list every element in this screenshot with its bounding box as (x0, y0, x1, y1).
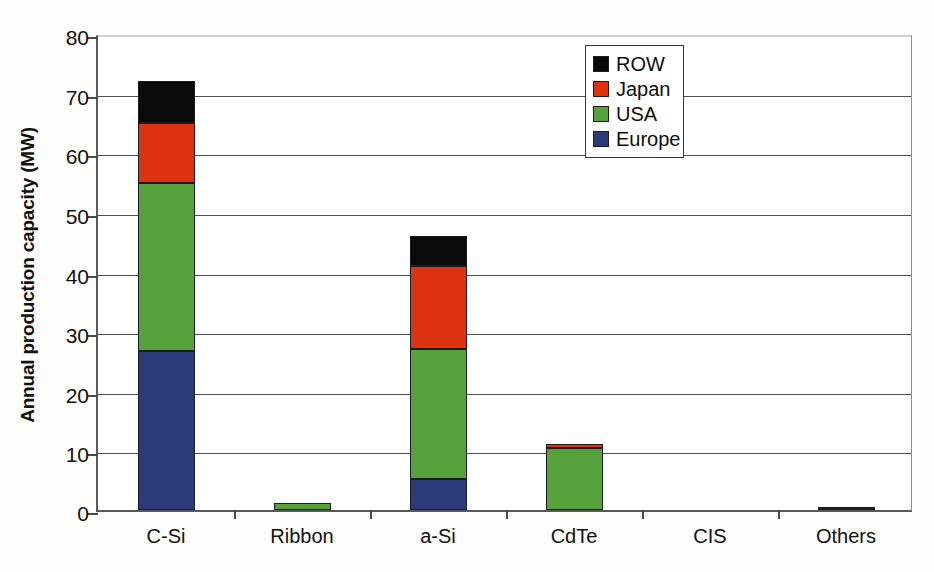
y-tick-0 (88, 513, 98, 515)
chart-legend: ROW Japan USA Europe (585, 45, 684, 158)
bar-others[interactable] (818, 507, 875, 510)
gridline-80: 80 (98, 36, 911, 37)
y-tick-label-20: 20 (66, 384, 89, 405)
legend-label-usa: USA (616, 104, 657, 124)
y-tick-20 (88, 395, 98, 397)
x-tick-boundary-1 (234, 510, 236, 519)
y-tick-80 (88, 37, 98, 39)
gridline-20: 20 (98, 394, 911, 395)
bar-ribbon[interactable] (274, 503, 331, 510)
gridline-50: 50 (98, 215, 911, 216)
bar-segment-a-si-europe (410, 479, 467, 510)
figure-caption (0, 556, 934, 572)
chart-figure: Annual production capacity (MW) 80 70 60… (0, 0, 934, 572)
legend-label-europe: Europe (616, 129, 681, 149)
legend-item-usa[interactable]: USA (593, 101, 676, 126)
gridline-60: 60 (98, 155, 911, 156)
x-axis-label-c-si: C-Si (147, 526, 186, 546)
bar-cdte[interactable] (546, 444, 603, 510)
legend-swatch-usa-icon (593, 106, 609, 122)
plot-area: 80 70 60 50 40 30 20 10 (96, 35, 912, 512)
x-tick-boundary-2 (370, 510, 372, 519)
bar-segment-ribbon-usa (274, 503, 331, 510)
legend-swatch-japan-icon (593, 81, 609, 97)
x-axis-label-cis: CIS (693, 526, 726, 546)
y-tick-label-80: 80 (66, 27, 89, 48)
bar-segment-others-row (818, 507, 875, 510)
gridline-70: 70 (98, 96, 911, 97)
y-tick-30 (88, 335, 98, 337)
y-tick-70 (88, 97, 98, 99)
bar-segment-cdte-usa (546, 448, 603, 510)
x-axis-label-cdte: CdTe (551, 526, 598, 546)
y-tick-60 (88, 156, 98, 158)
bar-segment-a-si-row (410, 236, 467, 266)
x-tick-boundary-3 (506, 510, 508, 519)
y-tick-label-0: 0 (77, 503, 89, 524)
y-tick-50 (88, 216, 98, 218)
bar-segment-a-si-usa (410, 349, 467, 479)
bar-a-si[interactable] (410, 236, 467, 510)
x-axis-label-a-si: a-Si (420, 526, 456, 546)
gridline-10: 10 (98, 453, 911, 454)
legend-item-row[interactable]: ROW (593, 51, 676, 76)
gridline-40: 40 (98, 275, 911, 276)
x-axis-label-ribbon: Ribbon (270, 526, 333, 546)
legend-swatch-europe-icon (593, 131, 609, 147)
y-tick-label-40: 40 (66, 265, 89, 286)
legend-label-row: ROW (616, 54, 665, 74)
y-tick-label-70: 70 (66, 86, 89, 107)
x-tick-boundary-5 (778, 510, 780, 519)
legend-item-europe[interactable]: Europe (593, 126, 676, 151)
y-axis-title: Annual production capacity (MW) (17, 25, 39, 525)
bar-segment-c-si-japan (138, 123, 195, 184)
bar-segment-a-si-japan (410, 266, 467, 350)
bar-segment-c-si-usa (138, 183, 195, 351)
bar-segment-c-si-row (138, 81, 195, 123)
y-tick-label-30: 30 (66, 325, 89, 346)
y-tick-label-50: 50 (66, 205, 89, 226)
y-tick-label-60: 60 (66, 146, 89, 167)
legend-swatch-row-icon (593, 56, 609, 72)
gridline-30: 30 (98, 334, 911, 335)
bar-segment-c-si-europe (138, 351, 195, 510)
bar-segment-cdte-japan (546, 444, 603, 448)
bar-c-si[interactable] (138, 81, 195, 510)
y-tick-40 (88, 276, 98, 278)
legend-label-japan: Japan (616, 79, 671, 99)
legend-item-japan[interactable]: Japan (593, 76, 676, 101)
y-tick-label-10: 10 (66, 444, 89, 465)
x-axis-label-others: Others (816, 526, 876, 546)
y-tick-10 (88, 454, 98, 456)
x-tick-boundary-4 (642, 510, 644, 519)
